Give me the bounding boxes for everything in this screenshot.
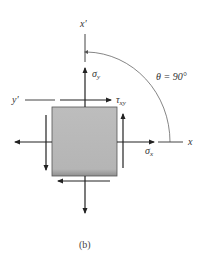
sigma-y-label: σy bbox=[92, 68, 101, 81]
y-prime-axis: y′ bbox=[11, 94, 55, 105]
sigma-x-label: σx bbox=[145, 145, 154, 158]
y-prime-label: y′ bbox=[11, 94, 19, 105]
stress-element-diagram: x′ θ = 90° y′ σy τxy σx x (b) bbox=[0, 0, 206, 262]
x-label: x bbox=[187, 136, 193, 147]
x-axis: x bbox=[158, 136, 193, 147]
sigma-y-arrow: σy bbox=[85, 68, 101, 107]
tau-xy-label: τxy bbox=[116, 94, 127, 107]
x-prime-label: x′ bbox=[79, 18, 87, 29]
stress-element bbox=[52, 107, 117, 176]
figure-caption: (b) bbox=[79, 239, 91, 251]
x-prime-axis: x′ bbox=[79, 18, 87, 62]
tau-xy-top-arrow: τxy bbox=[60, 94, 127, 107]
theta-label: θ = 90° bbox=[156, 71, 187, 82]
